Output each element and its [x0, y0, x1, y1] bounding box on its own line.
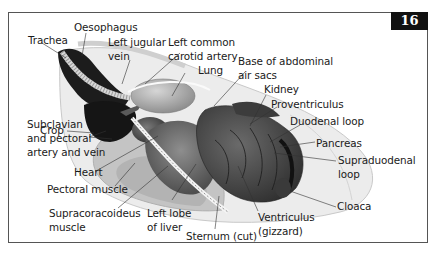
label-trachea: Trachea — [28, 34, 68, 47]
label-cloaca: Cloaca — [337, 200, 371, 213]
label-lung: Lung — [198, 64, 223, 77]
label-proventriculus: Proventriculus — [271, 98, 344, 111]
label-pancreas: Pancreas — [316, 137, 362, 150]
label-left-common-carotid-line2: carotid artery — [168, 50, 237, 63]
label-kidney: Kidney — [264, 83, 299, 96]
label-sternum-cut: Sternum (cut) — [186, 230, 257, 243]
label-left-common-carotid-line1: Left common — [168, 36, 235, 49]
label-subclavian-line1: Subclavian — [27, 118, 83, 131]
label-supracoracoideus-line1: Supracoracoideus — [49, 207, 140, 220]
label-ventriculus-line2: (gizzard) — [258, 225, 303, 238]
label-heart: Heart — [74, 166, 102, 179]
label-supraduodenal-loop-line1: Supraduodenal — [338, 154, 415, 167]
cloaca-shape — [275, 178, 291, 198]
label-pectoral-muscle: Pectoral muscle — [47, 183, 128, 196]
label-supraduodenal-loop-line2: loop — [338, 168, 360, 181]
label-subclavian-line2: and pectoral — [27, 132, 91, 145]
label-base-abdominal-air-sacs-line2: air sacs — [238, 69, 277, 82]
lung-shape — [131, 79, 195, 113]
label-left-lobe-liver-line1: Left lobe — [147, 207, 191, 220]
label-left-jugular-vein-line2: vein — [108, 50, 130, 63]
label-base-abdominal-air-sacs-line1: Base of abdominal — [238, 55, 333, 68]
label-subclavian-line3: artery and vein — [27, 146, 105, 159]
label-left-lobe-liver-line2: of liver — [147, 221, 182, 234]
label-ventriculus-line1: Ventriculus — [258, 211, 315, 224]
label-duodenal-loop: Duodenal loop — [290, 115, 364, 128]
label-supracoracoideus-line2: muscle — [49, 221, 86, 234]
label-oesophagus: Oesophagus — [74, 21, 138, 34]
label-left-jugular-vein-line1: Left jugular — [108, 36, 166, 49]
